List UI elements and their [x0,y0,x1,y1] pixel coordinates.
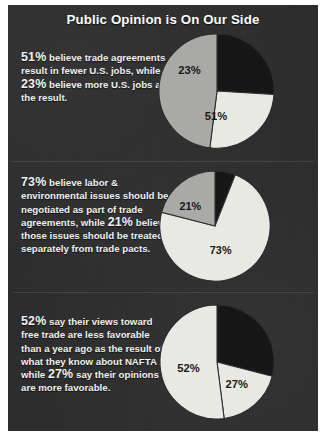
pie-chart-1-svg: 23% 51% [158,32,276,150]
pie-2-label-negotiated: 73% [210,244,232,256]
pie-chart-3: 52% 27% [158,303,276,421]
panel-3-second-percent: 27% [48,367,73,381]
panel-2-second-percent: 21% [108,215,133,229]
poster: Public Opinion is On Our Side 51% believ… [0,0,324,436]
pie-3-label-less-favorable: 52% [177,362,199,374]
panel-1-lead-percent: 51% [21,50,46,64]
panel-1-second-percent: 23% [21,77,46,91]
pie-chart-2: 21% 73% [158,169,272,283]
pie-2-label-separate: 21% [179,200,201,212]
pie-3-label-more-favorable: 27% [225,378,247,390]
page-title: Public Opinion is On Our Side [8,12,318,27]
poster-board: Public Opinion is On Our Side 51% believ… [8,5,318,431]
pie-1-slice-other [217,34,274,95]
panel-trade-agreements-jobs: 51% believe trade agreements result in f… [8,29,318,162]
pie-1-label-fewer-jobs: 51% [205,110,227,122]
pie-1-slice-more-jobs [159,34,217,148]
panel-3-lead-percent: 52% [21,314,46,328]
pie-1-label-more-jobs: 23% [178,64,200,76]
panel-3-blurb: 52% say their views toward free trade ar… [21,315,171,395]
panel-1-blurb: 51% believe trade agreements result in f… [21,51,171,104]
panel-2-lead-percent: 73% [21,175,46,189]
pie-chart-3-svg: 52% 27% [158,303,276,421]
panel-labor-environmental: 73% believe labor & environmental issues… [8,162,318,293]
pie-chart-2-svg: 21% 73% [158,169,272,283]
panel-nafta-views: 52% say their views toward free trade ar… [8,293,318,431]
pie-chart-1: 23% 51% [158,32,276,150]
panel-2-blurb: 73% believe labor & environmental issues… [21,176,171,256]
